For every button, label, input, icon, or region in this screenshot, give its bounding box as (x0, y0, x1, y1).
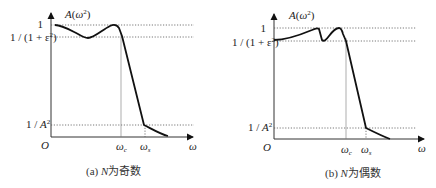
x-label-omega-c: ωc (341, 143, 353, 157)
origin-label: O (41, 139, 49, 151)
response-curve-even (274, 28, 390, 139)
y-label-one: 1 (38, 18, 44, 30)
origin-label: O (263, 141, 271, 153)
caption-b: (b) N为偶数 (325, 167, 381, 180)
y-axis-title: A(ω2) (64, 8, 91, 21)
x-label-omega-s: ωs (140, 140, 151, 154)
y-label-ripple: 1 / (1 + ε2) (232, 36, 279, 49)
x-axis-title: ω (418, 142, 426, 154)
panel-b-even: 1 1 / (1 + ε2) 1 / A2 O A(ω2) ωc ωs ω (b… (232, 9, 426, 180)
panel-a-odd: 1 1 / (1 + ε2) 1 / A2 O A(ω2) ωc ωs ω (a… (10, 8, 197, 178)
x-axis-title: ω (189, 140, 197, 152)
y-axis-title: A(ω2) (288, 9, 315, 22)
y-label-stopband: 1 / A2 (248, 121, 273, 133)
x-label-omega-c: ωc (116, 140, 128, 154)
chebyshev-response-diagrams: 1 1 / (1 + ε2) 1 / A2 O A(ω2) ωc ωs ω (a… (0, 0, 436, 188)
y-label-stopband: 1 / A2 (26, 118, 51, 130)
caption-a: (a) N为奇数 (86, 165, 141, 178)
y-label-ripple: 1 / (1 + ε2) (10, 31, 57, 44)
y-label-one: 1 (261, 22, 267, 34)
x-label-omega-s: ωs (361, 143, 372, 157)
response-curve-odd (55, 25, 168, 136)
